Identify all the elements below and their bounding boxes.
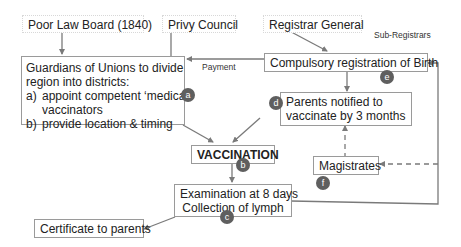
node-compulsory-registration-label: Compulsory registration of Birth <box>270 56 438 70</box>
node-privy-council-label: Privy Council <box>168 18 238 32</box>
guardians-line-2: region into districts: <box>26 75 180 89</box>
node-magistrates-label: Magistrates <box>319 159 381 173</box>
parents-notified-line-2: vaccinate by 3 months <box>286 109 406 123</box>
guardians-item-a: a)appoint competent ‘medical’ <box>26 89 180 103</box>
badge-c: c <box>220 210 234 224</box>
guardians-item-b-text: provide location & timing <box>42 117 173 131</box>
badge-a: a <box>181 88 195 102</box>
parents-notified-line-1: Parents notified to <box>286 95 406 109</box>
node-certificate: Certificate to parents <box>34 219 144 238</box>
badge-e: e <box>380 70 394 84</box>
node-vaccination: VACCINATION <box>191 145 275 164</box>
node-registrar-general: Registrar General <box>263 15 362 33</box>
node-parents-notified: Parents notified to vaccinate by 3 month… <box>280 92 412 126</box>
guardians-item-a-cont: vaccinators <box>26 103 180 117</box>
arrow-examination-loop-to-registration <box>291 63 438 204</box>
guardians-item-b: b)provide location & timing <box>26 117 180 131</box>
guardians-item-a-marker: a) <box>26 89 42 103</box>
node-registrar-general-label: Registrar General <box>269 18 364 32</box>
arrow-guardians-to-vaccination <box>183 125 213 142</box>
node-guardians-of-unions: Guardians of Unions to divide region int… <box>21 56 185 125</box>
badge-b: b <box>236 158 250 172</box>
guardians-line-1: Guardians of Unions to divide <box>26 61 180 75</box>
guardians-item-b-marker: b) <box>26 117 42 131</box>
badge-d: d <box>269 96 283 110</box>
node-privy-council: Privy Council <box>162 15 236 33</box>
node-certificate-label: Certificate to parents <box>40 222 151 236</box>
arrow-parents-to-vaccination <box>233 118 260 142</box>
edge-label-payment: Payment <box>202 62 236 72</box>
guardians-item-a-text: appoint competent ‘medical’ <box>42 89 191 103</box>
node-poor-law-board: Poor Law Board (1840) <box>22 15 144 33</box>
examination-line-1: Examination at 8 days <box>180 187 286 201</box>
node-examination: Examination at 8 days Collection of lymp… <box>174 184 292 217</box>
badge-f: f <box>316 176 330 190</box>
edge-label-sub-registrars: Sub-Registrars <box>374 30 431 40</box>
node-poor-law-board-label: Poor Law Board (1840) <box>28 18 152 32</box>
node-compulsory-registration: Compulsory registration of Birth <box>264 53 428 72</box>
node-magistrates: Magistrates <box>313 156 379 175</box>
